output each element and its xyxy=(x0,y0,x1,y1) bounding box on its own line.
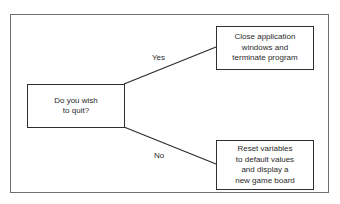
yes-result-text-line: windows and xyxy=(232,43,297,54)
no-result-text-line: Reset variables xyxy=(235,144,295,155)
yes-result-text-line: terminate program xyxy=(232,53,297,64)
decision-box: Do you wish to quit? xyxy=(27,84,125,128)
yes-result-box: Close application windows and terminate … xyxy=(216,26,314,70)
yes-label: Yes xyxy=(152,53,165,62)
yes-connector xyxy=(124,47,216,84)
decision-text-line: Do you wish xyxy=(54,96,98,107)
yes-result-text-line: Close application xyxy=(232,32,297,43)
decision-text-line: to quit? xyxy=(54,106,98,117)
no-result-text-line: and display a xyxy=(235,165,295,176)
no-result-text-line: new game board xyxy=(235,176,295,187)
no-label: No xyxy=(154,151,164,160)
no-result-text-line: to default values xyxy=(235,155,295,166)
no-connector xyxy=(124,127,216,164)
no-result-box: Reset variables to default values and di… xyxy=(216,140,314,190)
